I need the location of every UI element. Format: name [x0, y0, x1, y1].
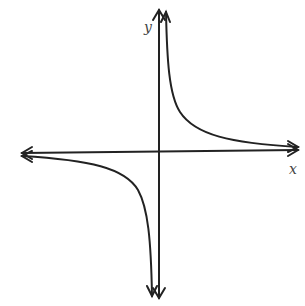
curve-branch-q3 [22, 156, 152, 296]
x-axis-label: x [289, 161, 297, 177]
curve-branch-q1 [166, 12, 298, 147]
reciprocal-function-graph: y x [0, 0, 305, 306]
y-axis-label: y [143, 19, 153, 35]
